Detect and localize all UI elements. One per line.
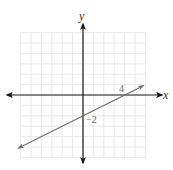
coordinate-plane: x y 4 −2	[0, 0, 173, 170]
x-intercept-label: 4	[119, 83, 124, 94]
y-axis-label: y	[78, 9, 85, 23]
x-axis-label: x	[162, 88, 169, 102]
y-intercept-label: −2	[86, 114, 97, 125]
